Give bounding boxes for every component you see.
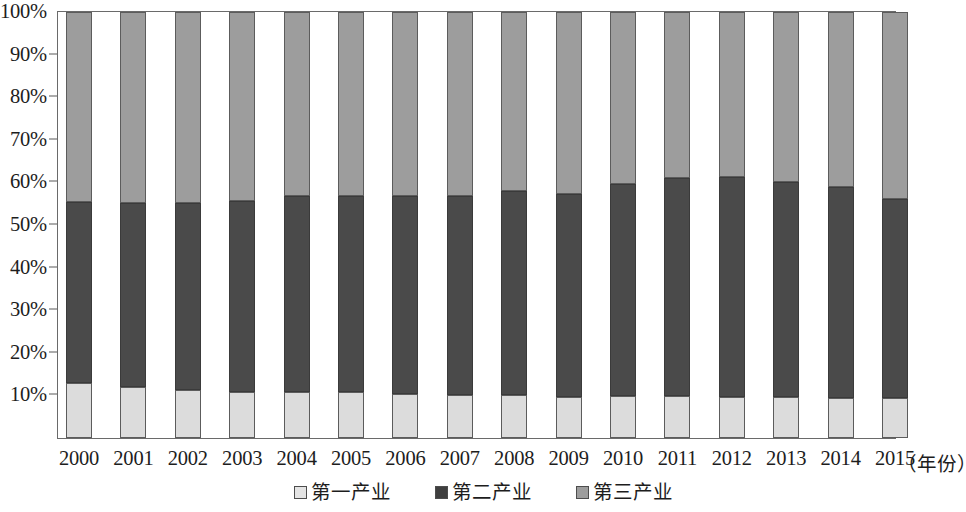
bar-segment[interactable] — [719, 397, 745, 438]
y-axis-tick-label: 10% — [10, 383, 47, 406]
bar-group[interactable] — [392, 12, 418, 438]
y-axis-tick-label: 40% — [10, 255, 47, 278]
bar-segment[interactable] — [338, 12, 364, 196]
bar-segment[interactable] — [447, 12, 473, 196]
bar-segment[interactable] — [664, 396, 690, 438]
bar-segment[interactable] — [664, 178, 690, 396]
bar-group[interactable] — [501, 12, 527, 438]
bar-segment[interactable] — [338, 392, 364, 438]
bar-segment[interactable] — [556, 397, 582, 438]
bar-segment[interactable] — [773, 397, 799, 438]
x-axis-tick-label: 2008 — [494, 447, 534, 470]
bar-group[interactable] — [828, 12, 854, 438]
bar-group[interactable] — [66, 12, 92, 438]
bar-segment[interactable] — [175, 390, 201, 438]
bar-segment[interactable] — [664, 12, 690, 178]
bar-segment[interactable] — [229, 12, 255, 201]
bar-group[interactable] — [447, 12, 473, 438]
bar-segment[interactable] — [882, 398, 908, 438]
bar-group[interactable] — [719, 12, 745, 438]
legend-swatch-icon — [435, 486, 448, 499]
bar-segment[interactable] — [175, 203, 201, 390]
y-axis-tick-label: 60% — [10, 170, 47, 193]
legend-label: 第一产业 — [311, 483, 391, 503]
bar-segment[interactable] — [392, 12, 418, 196]
bar-segment[interactable] — [501, 395, 527, 438]
x-axis-tick-label: 2000 — [59, 447, 99, 470]
bar-segment[interactable] — [501, 12, 527, 191]
bar-group[interactable] — [882, 12, 908, 438]
y-axis-tick-mark — [49, 394, 57, 395]
bar-group[interactable] — [610, 12, 636, 438]
bar-segment[interactable] — [501, 191, 527, 395]
legend-swatch-icon — [576, 486, 589, 499]
bar-segment[interactable] — [773, 12, 799, 182]
bar-segment[interactable] — [229, 392, 255, 438]
bar-group[interactable] — [175, 12, 201, 438]
bar-group[interactable] — [556, 12, 582, 438]
legend-item[interactable]: 第一产业 — [294, 483, 391, 503]
bar-segment[interactable] — [828, 12, 854, 187]
bar-segment[interactable] — [284, 392, 310, 438]
bar-segment[interactable] — [828, 187, 854, 399]
y-axis-tick-mark — [49, 53, 57, 54]
bar-segment[interactable] — [719, 177, 745, 397]
bar-segment[interactable] — [773, 182, 799, 396]
plot-area — [57, 11, 896, 439]
x-axis-tick-label: 2004 — [276, 447, 316, 470]
legend-label: 第三产业 — [593, 483, 673, 503]
x-axis-tick-label: 2014 — [820, 447, 860, 470]
bar-segment[interactable] — [556, 12, 582, 194]
bar-segment[interactable] — [392, 394, 418, 438]
bar-segment[interactable] — [556, 194, 582, 397]
y-axis-tick-label: 20% — [10, 340, 47, 363]
bar-segment[interactable] — [610, 184, 636, 396]
bar-group[interactable] — [664, 12, 690, 438]
bar-group[interactable] — [229, 12, 255, 438]
bar-segment[interactable] — [229, 201, 255, 391]
bar-segment[interactable] — [719, 12, 745, 177]
x-axis-tick-label: 2009 — [548, 447, 588, 470]
x-axis-tick-label: 2003 — [222, 447, 262, 470]
bar-group[interactable] — [120, 12, 146, 438]
bar-segment[interactable] — [610, 396, 636, 438]
bar-group[interactable] — [284, 12, 310, 438]
y-axis-tick-label: 50% — [10, 213, 47, 236]
x-axis-title: （年份） — [897, 448, 966, 477]
bar-segment[interactable] — [392, 196, 418, 395]
legend-item[interactable]: 第二产业 — [435, 483, 532, 503]
bar-segment[interactable] — [66, 12, 92, 202]
bar-segment[interactable] — [120, 387, 146, 438]
y-axis-tick-mark — [49, 351, 57, 352]
bar-segment[interactable] — [66, 202, 92, 383]
y-axis-tick-mark — [49, 266, 57, 267]
y-axis-tick-mark — [49, 224, 57, 225]
y-axis-tick-mark — [49, 181, 57, 182]
bar-segment[interactable] — [882, 12, 908, 199]
bar-segment[interactable] — [175, 12, 201, 203]
bar-segment[interactable] — [284, 196, 310, 392]
bar-segment[interactable] — [447, 196, 473, 395]
bar-segment[interactable] — [120, 12, 146, 203]
x-axis-tick-label: 2007 — [440, 447, 480, 470]
legend-label: 第二产业 — [452, 483, 532, 503]
bar-group[interactable] — [338, 12, 364, 438]
x-axis: 2000200120022003200420052006200720082009… — [0, 447, 966, 481]
stacked-bar-chart: 10%20%30%40%50%60%70%80%90%100% 20002001… — [0, 0, 966, 512]
y-axis-tick-mark — [49, 138, 57, 139]
x-axis-tick-label: 2013 — [766, 447, 806, 470]
x-axis-tick-label: 2001 — [113, 447, 153, 470]
y-axis-tick-label: 80% — [10, 85, 47, 108]
bar-segment[interactable] — [284, 12, 310, 196]
bar-segment[interactable] — [882, 199, 908, 397]
bar-segment[interactable] — [338, 196, 364, 392]
legend-item[interactable]: 第三产业 — [576, 483, 673, 503]
bar-segment[interactable] — [447, 395, 473, 438]
bar-segment[interactable] — [610, 12, 636, 184]
y-axis-tick-label: 30% — [10, 298, 47, 321]
bar-segment[interactable] — [120, 203, 146, 387]
bar-group[interactable] — [773, 12, 799, 438]
bar-segment[interactable] — [828, 398, 854, 438]
bar-segment[interactable] — [66, 383, 92, 438]
x-axis-tick-label: 2011 — [658, 447, 697, 470]
